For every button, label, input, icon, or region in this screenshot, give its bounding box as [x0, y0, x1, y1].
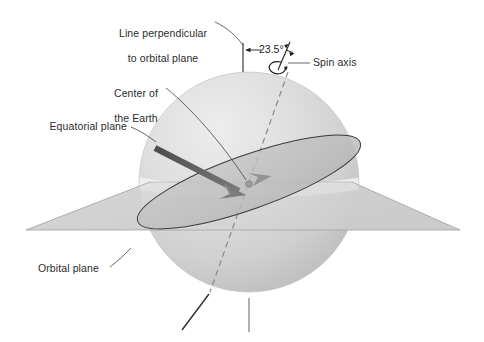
label-line-perpendicular-row1: Line perpendicular	[119, 27, 207, 39]
label-equatorial-plane: Equatorial plane	[31, 120, 127, 133]
label-line-perpendicular: Line perpendicular to orbital plane	[96, 14, 218, 77]
diagram-canvas: Line perpendicular to orbital plane 23.5…	[0, 0, 484, 342]
label-center-of-earth-row1: Center of	[114, 87, 158, 99]
label-spin-axis: Spin axis	[313, 56, 357, 69]
label-tilt-angle: 23.5°	[259, 43, 284, 55]
label-orbital-plane: Orbital plane	[38, 262, 99, 275]
leader-perpendicular	[215, 22, 243, 45]
earth-tilt-illustration	[0, 0, 484, 342]
label-line-perpendicular-row2: to orbital plane	[128, 52, 198, 64]
earth-center-marker	[246, 181, 253, 188]
leader-orbital	[110, 248, 131, 267]
spin-axis-bottom-segment	[182, 294, 209, 330]
